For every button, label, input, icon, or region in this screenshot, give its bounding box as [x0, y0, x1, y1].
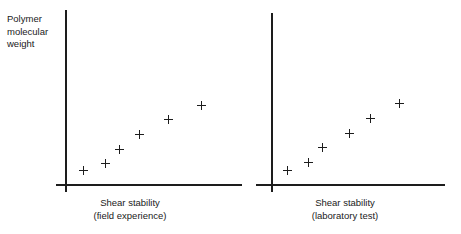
- x-axis-line-left: [56, 184, 242, 186]
- data-point-marker: [395, 99, 404, 108]
- data-point-marker: [79, 166, 88, 175]
- x-axis-label-line-1: Shear stability: [245, 196, 445, 209]
- data-point-marker: [283, 166, 292, 175]
- y-axis-label-left: Polymer molecular weight: [7, 13, 63, 51]
- data-point-marker: [115, 145, 124, 154]
- x-axis-label-line-2: (laboratory test): [245, 209, 445, 222]
- data-point-marker: [345, 129, 354, 138]
- chart-panel-field-experience: Polymer molecular weight Shear stability…: [0, 0, 230, 234]
- scatter-plot-figure: Polymer molecular weight Shear stability…: [0, 0, 461, 234]
- y-axis-label-line-2: molecular: [7, 26, 63, 39]
- x-axis-label-right: Shear stability (laboratory test): [245, 196, 445, 222]
- x-axis-label-line-1: Shear stability: [30, 196, 230, 209]
- y-axis-line-right: [271, 13, 273, 192]
- x-axis-label-left: Shear stability (field experience): [30, 196, 230, 222]
- x-axis-line-right: [256, 184, 445, 186]
- data-point-marker: [197, 101, 206, 110]
- y-axis-label-line-1: Polymer: [7, 13, 63, 26]
- data-point-marker: [318, 143, 327, 152]
- y-axis-line-left: [65, 10, 67, 192]
- x-axis-label-line-2: (field experience): [30, 209, 230, 222]
- y-axis-label-line-3: weight: [7, 38, 63, 51]
- data-point-marker: [135, 130, 144, 139]
- data-point-marker: [304, 158, 313, 167]
- data-point-marker: [164, 115, 173, 124]
- data-point-marker: [101, 159, 110, 168]
- data-point-marker: [366, 114, 375, 123]
- chart-panel-laboratory-test: Shear stability (laboratory test): [230, 0, 460, 234]
